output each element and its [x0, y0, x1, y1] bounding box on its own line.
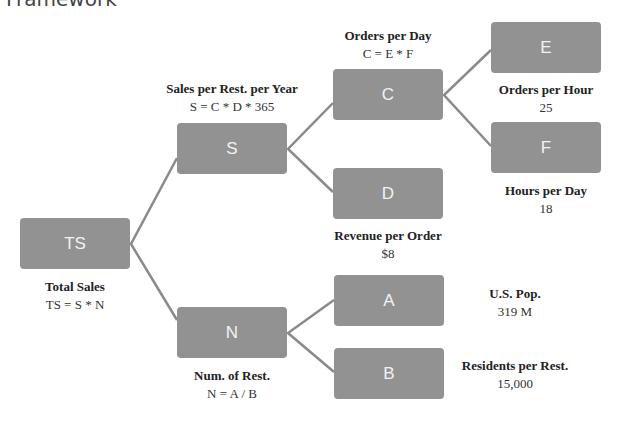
node-ts-caption: Total Sales TS = S * N: [0, 278, 150, 314]
node-n-name: Num. of Rest.: [152, 367, 312, 385]
node-f-value: 18: [476, 200, 616, 218]
node-c: C: [333, 69, 443, 120]
node-s-caption: Sales per Rest. per Year S = C * D * 365: [142, 80, 322, 116]
node-ts-formula: TS = S * N: [0, 296, 150, 314]
node-ts: TS: [20, 218, 130, 269]
node-a-value: 319 M: [465, 303, 565, 321]
node-d-name: Revenue per Order: [313, 227, 463, 245]
node-f-caption: Hours per Day 18: [476, 182, 616, 218]
node-b-caption: Residents per Rest. 15,000: [450, 357, 580, 393]
node-e-caption: Orders per Hour 25: [476, 81, 616, 117]
node-c-formula: C = E * F: [318, 45, 458, 63]
node-a: A: [334, 275, 444, 326]
node-f: F: [491, 122, 601, 173]
node-e-name: Orders per Hour: [476, 81, 616, 99]
node-n-caption: Num. of Rest. N = A / B: [152, 367, 312, 403]
node-s-formula: S = C * D * 365: [142, 98, 322, 116]
node-a-name: U.S. Pop.: [465, 285, 565, 303]
node-f-name: Hours per Day: [476, 182, 616, 200]
node-e: E: [491, 22, 601, 73]
node-s-name: Sales per Rest. per Year: [142, 80, 322, 98]
node-c-name: Orders per Day: [318, 27, 458, 45]
node-b-name: Residents per Rest.: [450, 357, 580, 375]
node-d-caption: Revenue per Order $8: [313, 227, 463, 263]
node-n: N: [177, 307, 287, 358]
node-e-value: 25: [476, 99, 616, 117]
node-d: D: [333, 168, 443, 219]
node-c-caption: Orders per Day C = E * F: [318, 27, 458, 63]
node-b-value: 15,000: [450, 375, 580, 393]
node-ts-name: Total Sales: [0, 278, 150, 296]
node-d-value: $8: [313, 245, 463, 263]
node-a-caption: U.S. Pop. 319 M: [465, 285, 565, 321]
node-n-formula: N = A / B: [152, 385, 312, 403]
node-b: B: [334, 348, 444, 399]
node-s: S: [177, 123, 287, 174]
